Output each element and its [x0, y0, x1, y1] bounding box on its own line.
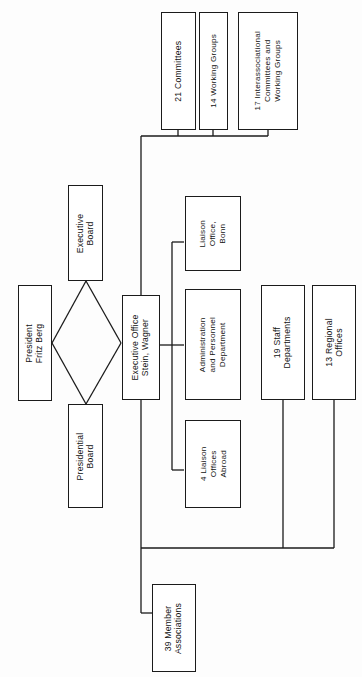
node-17-interassociational: 17 Interassociational Committees and Wor… — [238, 12, 298, 130]
node-4-liaison-offices-abroad-label: 4 Liaison Offices Abroad — [198, 447, 228, 482]
node-39-member-associations-label: 39 Member Associations — [164, 602, 185, 653]
node-14-working-groups-label: 14 Working Groups — [209, 34, 219, 108]
node-19-staff-departments: 19 Staff Departments — [261, 285, 305, 400]
node-liaison-office-bonn: Liaison Office, Bonn — [185, 196, 241, 271]
node-president-label: President Fritz Berg — [25, 323, 46, 363]
node-executive-board-label: Executive Board — [75, 213, 96, 253]
node-13-regional-offices: 13 Regional Offices — [312, 285, 356, 400]
node-presidential-board-label: Presidential Board — [75, 432, 96, 480]
node-14-working-groups: 14 Working Groups — [199, 12, 228, 130]
node-4-liaison-offices-abroad: 4 Liaison Offices Abroad — [185, 420, 241, 508]
node-19-staff-departments-label: 19 Staff Departments — [273, 317, 294, 369]
node-executive-board: Executive Board — [68, 185, 103, 281]
node-executive-office: Executive Office Stein, Wagner — [122, 295, 160, 400]
node-17-interassociational-label: 17 Interassociational Committees and Wor… — [253, 31, 283, 111]
node-presidential-board: Presidential Board — [68, 404, 103, 508]
node-21-committees: 21 Committees — [161, 12, 196, 130]
node-21-committees-label: 21 Committees — [173, 40, 183, 101]
diamond-exec-board-to-exec-office — [86, 281, 121, 343]
node-admin-personnel-department: Administration and Personnel Department — [185, 289, 241, 400]
diamond-president-to-exec-board — [52, 281, 86, 343]
diamond-presidential-board-to-exec-office — [86, 343, 121, 404]
node-president: President Fritz Berg — [18, 285, 52, 401]
node-admin-personnel-department-label: Administration and Personnel Department — [198, 317, 228, 372]
node-executive-office-label: Executive Office Stein, Wagner — [131, 315, 152, 381]
node-13-regional-offices-label: 13 Regional Offices — [324, 318, 345, 367]
node-39-member-associations: 39 Member Associations — [152, 584, 196, 672]
node-liaison-office-bonn-label: Liaison Office, Bonn — [198, 220, 228, 247]
org-chart: President Fritz Berg Executive Board Pre… — [0, 0, 362, 677]
diamond-president-to-presidential-board — [52, 343, 86, 404]
